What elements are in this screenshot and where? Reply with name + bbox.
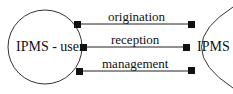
ipms-label: IPMS [197,40,230,54]
origination-label: origination [108,10,165,23]
port-square-left-management [76,68,83,75]
port-square-right-reception [183,44,190,51]
reception-label: reception [111,33,159,46]
diagram: IPMS - user IPMS origination reception m… [0,0,233,94]
ipms-user-label: IPMS - user [16,40,84,54]
port-square-right-management [188,67,195,74]
management-label: management [102,57,168,70]
port-square-left-origination [74,21,81,28]
port-square-right-origination [188,21,195,28]
